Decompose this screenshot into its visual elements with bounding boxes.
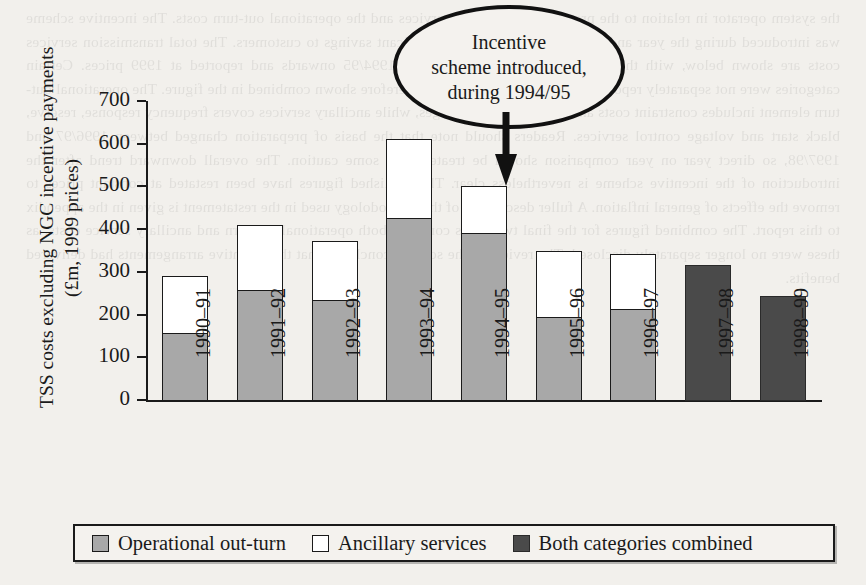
y-tick-label: 500 [99,172,131,197]
x-axis-label: 1995–96 [566,288,589,408]
x-axis-label: 1991–92 [267,288,290,408]
y-tick-500: 500 [137,185,146,187]
y-tick-mark [137,314,146,316]
legend-swatch-icon [312,535,329,552]
y-tick-label: 200 [99,301,131,326]
legend-label: Ancillary services [338,532,487,555]
x-axis-label: 1997–98 [715,288,738,408]
y-tick-400: 400 [137,228,146,230]
y-tick-label: 300 [99,258,131,283]
x-axis-label: 1994–95 [491,288,514,408]
y-tick-mark [137,228,146,230]
legend-item[interactable]: Operational out-turn [92,532,286,555]
y-tick-600: 600 [137,143,146,145]
y-tick-0: 0 [137,399,146,401]
y-tick-mark [137,185,146,187]
annotation-line-1: Incentive [431,30,587,55]
y-tick-label: 700 [99,87,131,112]
annotation-arrow-icon [495,112,517,188]
annotation-callout-ellipse: Incentive scheme introduced, during 1994… [393,5,625,129]
chart-legend: Operational out-turnAncillary servicesBo… [73,524,835,562]
x-axis-label: 1993–94 [416,288,439,408]
bar-segment [386,139,432,219]
x-axis-label: 1996–97 [640,288,663,408]
x-axis-label: 1992–93 [342,288,365,408]
legend-swatch-icon [513,535,530,552]
legend-item[interactable]: Ancillary services [312,532,487,555]
legend-item[interactable]: Both categories combined [513,532,753,555]
legend-label: Operational out-turn [118,532,286,555]
y-tick-label: 600 [99,130,131,155]
y-tick-mark [137,100,146,102]
legend-label: Both categories combined [539,532,753,555]
y-tick-label: 100 [99,343,131,368]
y-tick-300: 300 [137,271,146,273]
y-axis-title-line2: (£m, 1999 prices) [59,48,84,408]
annotation-line-3: during 1994/95 [431,80,587,105]
y-tick-mark [137,143,146,145]
y-tick-200: 200 [137,314,146,316]
y-tick-700: 700 [137,100,146,102]
y-tick-label: 0 [120,386,131,411]
y-tick-label: 400 [99,215,131,240]
y-axis-title: TSS costs excluding NGC incentive paymen… [34,48,84,408]
bar-segment [237,225,283,291]
chart-page: the system operator in relation to the p… [0,0,866,585]
plot-area: 0100200300400500600700 1990–911991–92199… [146,101,820,400]
y-axis-title-line1: TSS costs excluding NGC incentive paymen… [36,47,57,408]
legend-swatch-icon [92,535,109,552]
x-axis-label: 1990–91 [192,288,215,408]
x-axis-label: 1998–99 [790,288,813,408]
chart-canvas: TSS costs excluding NGC incentive paymen… [0,0,866,585]
y-tick-mark [137,399,146,401]
bar-segment [461,186,507,234]
y-tick-100: 100 [137,356,146,358]
y-tick-mark [137,356,146,358]
annotation-line-2: scheme introduced, [431,55,587,80]
y-tick-mark [137,271,146,273]
